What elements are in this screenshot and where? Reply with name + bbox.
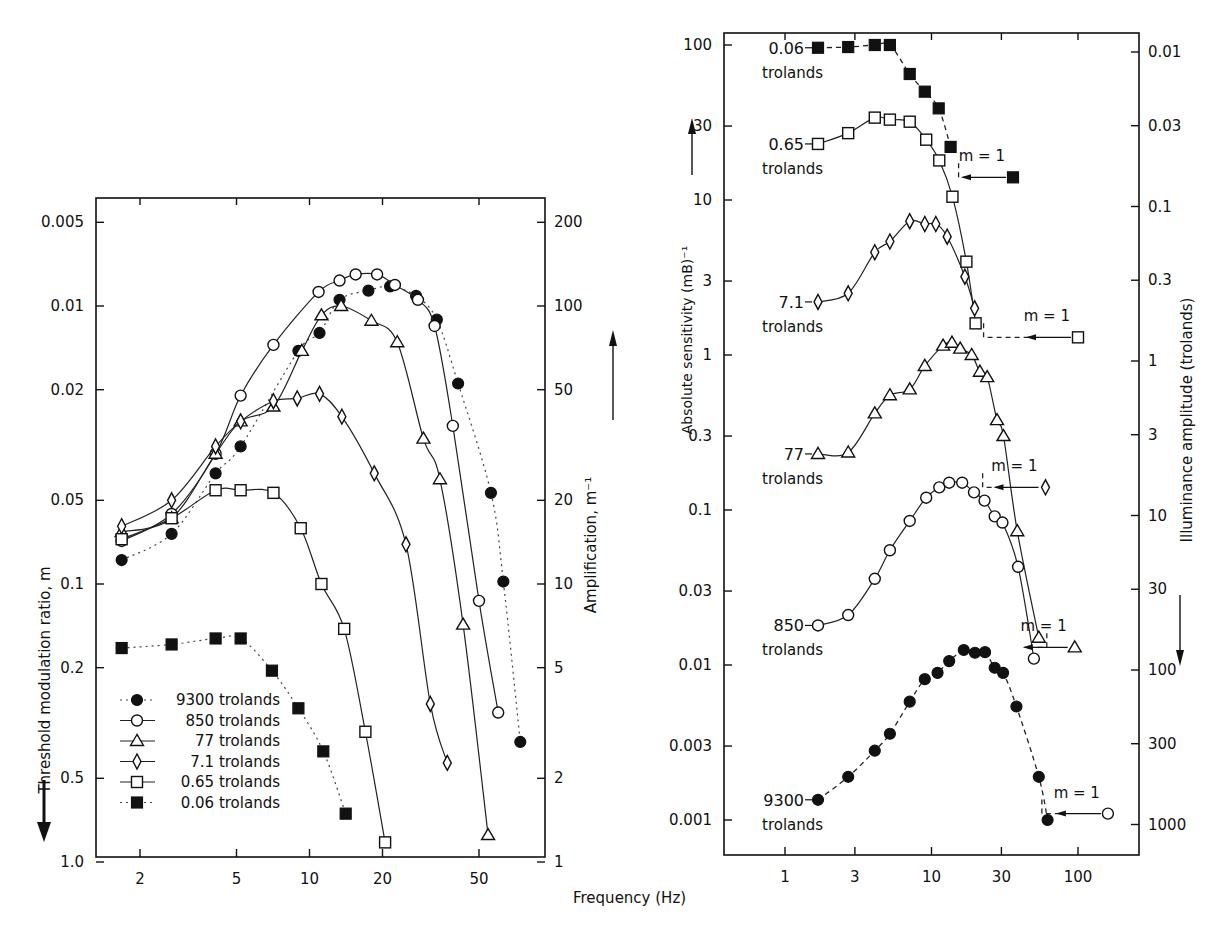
m-equals-1-label: m = 1 bbox=[959, 147, 1005, 165]
legend-label: 7.1 trolands bbox=[190, 753, 280, 771]
data-point bbox=[340, 808, 351, 819]
series-label-value: 0.65 bbox=[768, 135, 804, 154]
y-right-tick-label: 1000 bbox=[1148, 816, 1186, 834]
y-tick-label: 0.1 bbox=[60, 575, 84, 593]
data-point bbox=[921, 217, 929, 232]
data-point bbox=[812, 447, 825, 458]
data-point bbox=[166, 639, 177, 650]
data-point bbox=[168, 493, 176, 508]
arrow-down-icon bbox=[37, 822, 51, 842]
data-point bbox=[945, 336, 958, 347]
y-right-tick-label: 0.01 bbox=[1148, 43, 1181, 61]
x-tick-label: 30 bbox=[992, 868, 1011, 886]
legend-label: 77 trolands bbox=[195, 732, 280, 750]
data-point bbox=[457, 618, 470, 629]
y-right-axis-label: Amplification, m⁻¹ bbox=[582, 477, 600, 613]
data-point bbox=[402, 537, 410, 552]
series-label-value: 9300 bbox=[763, 791, 804, 810]
data-point bbox=[1011, 701, 1022, 712]
y-tick-label: 10 bbox=[693, 191, 712, 209]
y-right-tick-label: 30 bbox=[1148, 580, 1167, 598]
x-tick-label: 100 bbox=[1064, 868, 1093, 886]
data-point bbox=[339, 623, 350, 634]
data-point bbox=[944, 477, 955, 488]
data-point bbox=[515, 736, 526, 747]
legend-marker bbox=[132, 797, 143, 808]
y-right-tick-label: 10 bbox=[1148, 507, 1167, 525]
data-point bbox=[869, 573, 880, 584]
data-point bbox=[971, 301, 979, 316]
data-point bbox=[921, 134, 932, 145]
data-point bbox=[919, 674, 930, 685]
data-point bbox=[350, 269, 361, 280]
data-point bbox=[932, 217, 940, 232]
data-point bbox=[363, 285, 374, 296]
y-right-tick-label: 10 bbox=[554, 575, 573, 593]
y-axis-label: Threshold modulation ratio, m bbox=[36, 566, 54, 794]
y-tick-label: 1 bbox=[702, 346, 712, 364]
arrow-left-icon bbox=[1026, 334, 1036, 340]
y-tick-label: 0.1 bbox=[688, 501, 712, 519]
x-tick-label: 10 bbox=[922, 868, 941, 886]
y-right-tick-label: 1 bbox=[554, 853, 564, 871]
data-point bbox=[334, 275, 345, 286]
series-label-value: 7.1 bbox=[779, 293, 804, 312]
legend-label: 0.65 trolands bbox=[181, 773, 280, 791]
y-tick-label: 0.01 bbox=[51, 297, 84, 315]
data-point bbox=[116, 534, 127, 545]
data-point bbox=[997, 430, 1010, 441]
data-point bbox=[482, 829, 495, 840]
data-point bbox=[843, 42, 854, 53]
data-point bbox=[904, 696, 915, 707]
series-850-trolands bbox=[813, 477, 1040, 664]
data-point bbox=[991, 414, 1004, 425]
legend-label: 0.06 trolands bbox=[181, 794, 280, 812]
data-point bbox=[235, 485, 246, 496]
data-point bbox=[314, 327, 325, 338]
y-tick-label: 0.02 bbox=[51, 381, 84, 399]
data-point bbox=[412, 294, 423, 305]
data-point bbox=[934, 155, 945, 166]
legend-marker bbox=[133, 754, 141, 769]
data-point bbox=[360, 726, 371, 737]
arrow-left-icon bbox=[961, 174, 971, 180]
data-point bbox=[293, 703, 304, 714]
series-7-1-trolands bbox=[118, 386, 452, 770]
data-point bbox=[997, 517, 1008, 528]
y-tick-label: 0.001 bbox=[669, 811, 712, 829]
m-equals-1-label: m = 1 bbox=[1054, 784, 1100, 802]
legend: 9300 trolands850 trolands77 trolands7.1 … bbox=[120, 691, 280, 812]
data-point bbox=[814, 294, 822, 309]
data-point bbox=[969, 647, 980, 658]
y-right-tick-label: 200 bbox=[554, 213, 583, 231]
data-point bbox=[266, 665, 277, 676]
y-right-tick-label: 2 bbox=[554, 769, 564, 787]
data-point bbox=[210, 485, 221, 496]
data-point bbox=[316, 579, 327, 590]
data-point bbox=[295, 523, 306, 534]
data-point bbox=[869, 745, 880, 756]
data-point bbox=[947, 191, 958, 202]
data-point bbox=[235, 441, 246, 452]
y-tick-label: 0.2 bbox=[60, 659, 84, 677]
y-tick-label: 30 bbox=[693, 117, 712, 135]
data-point bbox=[884, 545, 895, 556]
data-point bbox=[980, 647, 991, 658]
data-point bbox=[429, 320, 440, 331]
data-point bbox=[293, 391, 301, 406]
data-point bbox=[210, 633, 221, 644]
y-tick-label: 0.01 bbox=[679, 656, 712, 674]
y-right-axis-label: Illuminance amplitude (trolands) bbox=[1178, 298, 1196, 543]
data-point bbox=[869, 112, 880, 123]
data-point bbox=[961, 256, 972, 267]
data-point bbox=[426, 696, 434, 711]
data-point bbox=[868, 407, 881, 418]
data-point bbox=[318, 746, 329, 757]
data-point bbox=[965, 349, 978, 360]
figure: 251020500.0050.010.020.050.10.20.51.0200… bbox=[0, 0, 1207, 940]
data-point bbox=[380, 837, 391, 848]
data-point bbox=[813, 138, 824, 149]
legend-label: 850 trolands bbox=[186, 712, 281, 730]
arrow-up-icon bbox=[609, 330, 617, 346]
data-point bbox=[493, 707, 504, 718]
